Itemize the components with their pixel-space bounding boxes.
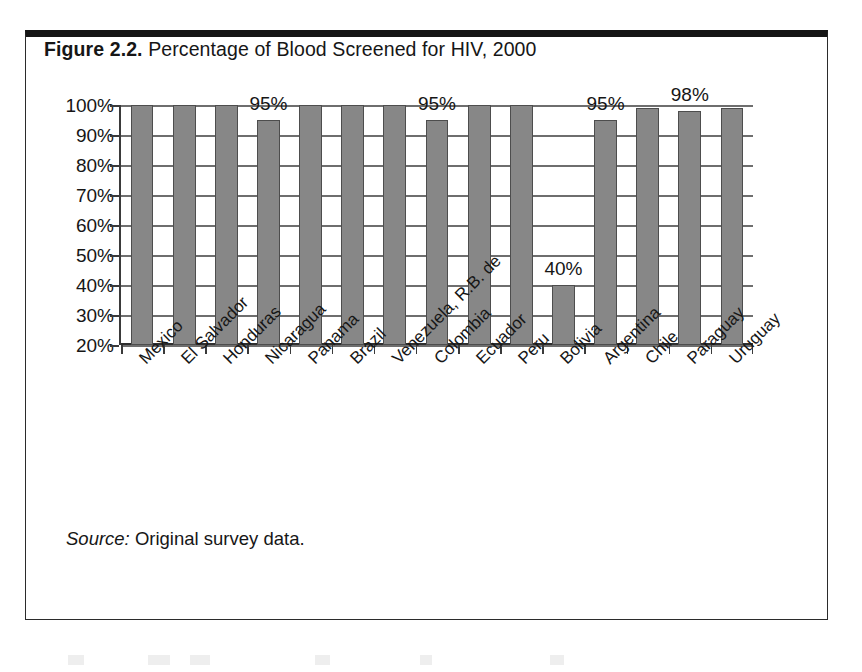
y-axis-tick-label: 90% bbox=[76, 126, 114, 145]
y-axis-tick-label: 70% bbox=[76, 186, 114, 205]
y-axis-tick bbox=[110, 135, 119, 137]
y-axis-tick-label: 20% bbox=[76, 336, 114, 355]
y-axis-tick bbox=[110, 315, 119, 317]
bar-value-label: 95% bbox=[587, 94, 625, 113]
y-axis-tick bbox=[110, 345, 119, 347]
y-axis-labels: 20%30%40%50%60%70%80%90%100% bbox=[45, 105, 117, 345]
bar-value-label: 95% bbox=[418, 94, 456, 113]
bar bbox=[552, 285, 575, 345]
source-note: Source: Original survey data. bbox=[66, 528, 305, 550]
y-axis-tick bbox=[110, 255, 119, 257]
bar bbox=[383, 105, 406, 345]
bar bbox=[510, 105, 533, 345]
y-axis-tick bbox=[110, 105, 119, 107]
y-axis-tick-label: 40% bbox=[76, 276, 114, 295]
bar-chart: 20%30%40%50%60%70%80%90%100% 95%95%40%95… bbox=[45, 105, 765, 395]
bar bbox=[678, 111, 701, 345]
y-axis-tick bbox=[110, 285, 119, 287]
y-axis-tick-label: 80% bbox=[76, 156, 114, 175]
source-label: Source: bbox=[66, 528, 130, 549]
y-axis-tick-label: 50% bbox=[76, 246, 114, 265]
bar bbox=[341, 105, 364, 345]
y-axis-tick bbox=[110, 165, 119, 167]
bar bbox=[594, 120, 617, 345]
bar-value-label: 98% bbox=[671, 85, 709, 104]
y-axis-tick-label: 60% bbox=[76, 216, 114, 235]
figure-title: Figure 2.2. Percentage of Blood Screened… bbox=[44, 38, 536, 61]
y-axis-tick-label: 30% bbox=[76, 306, 114, 325]
figure-number: Figure 2.2. bbox=[44, 38, 143, 60]
y-axis-tick bbox=[110, 195, 119, 197]
bar bbox=[173, 105, 196, 345]
x-axis-tick bbox=[121, 345, 123, 354]
figure-title-text: Percentage of Blood Screened for HIV, 20… bbox=[143, 38, 537, 60]
x-axis-labels: MexicoEl SalvadorHondurasNicaraguaPanama… bbox=[121, 355, 753, 475]
scan-artifact bbox=[30, 655, 590, 665]
bar bbox=[131, 105, 154, 345]
y-axis-tick-label: 100% bbox=[65, 96, 114, 115]
bar-value-label: 95% bbox=[249, 94, 287, 113]
source-text: Original survey data. bbox=[130, 528, 305, 549]
bar-value-label: 40% bbox=[544, 259, 582, 278]
y-axis-tick bbox=[110, 225, 119, 227]
